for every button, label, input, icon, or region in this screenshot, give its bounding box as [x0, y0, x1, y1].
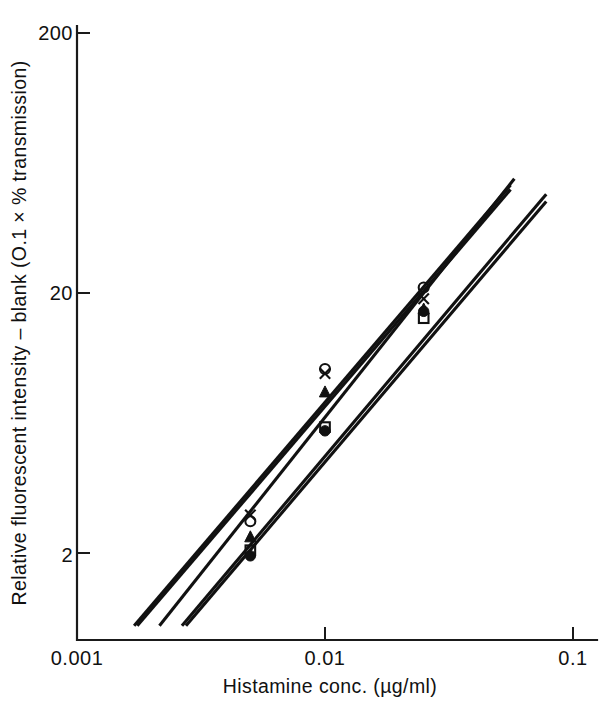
figure-container: 200 20 2 0.001 0.01 0.1 Histamine conc. …	[0, 0, 612, 708]
y-axis-ticks	[77, 33, 90, 553]
data-curves	[134, 179, 546, 626]
x-tick-label-0.1: 0.1	[558, 647, 587, 669]
y-tick-label-20: 20	[50, 282, 73, 304]
axis-frame	[77, 26, 597, 640]
y-tick-label-2: 2	[61, 544, 73, 566]
log-log-calibration-chart: 200 20 2 0.001 0.01 0.1 Histamine conc. …	[0, 0, 612, 708]
x-axis-ticks	[325, 627, 573, 640]
x-tick-label-0.01: 0.01	[305, 647, 346, 669]
x-axis-title: Histamine conc. (µg/ml)	[223, 675, 437, 697]
y-axis-title: Relative fluorescent intensity – blank (…	[8, 60, 30, 605]
x-tick-label-0.001: 0.001	[51, 647, 104, 669]
y-tick-label-200: 200	[38, 22, 73, 44]
